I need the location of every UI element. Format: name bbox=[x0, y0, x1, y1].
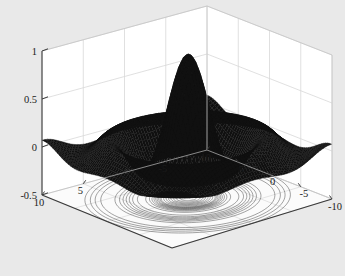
x-tick-label: 0 bbox=[270, 176, 275, 187]
y-tick-label: 5 bbox=[78, 185, 83, 196]
x-tick-label: -5 bbox=[299, 188, 308, 199]
x-tick-label: 5 bbox=[239, 164, 244, 175]
z-tick-label: 1 bbox=[32, 46, 37, 57]
y-tick-label: 0 bbox=[119, 174, 124, 185]
figure-canvas: 10.50-0.51050-5-10-10-505 bbox=[0, 0, 345, 276]
y-tick-label: -10 bbox=[197, 152, 211, 163]
surface-plot-svg: 10.50-0.51050-5-10-10-505 bbox=[0, 0, 345, 276]
z-tick-label: 0.5 bbox=[24, 94, 37, 105]
y-tick-label: -5 bbox=[158, 163, 167, 174]
z-tick-label: 0 bbox=[32, 142, 37, 153]
x-tick-label: -10 bbox=[328, 201, 342, 212]
y-tick-label: 10 bbox=[34, 197, 45, 208]
